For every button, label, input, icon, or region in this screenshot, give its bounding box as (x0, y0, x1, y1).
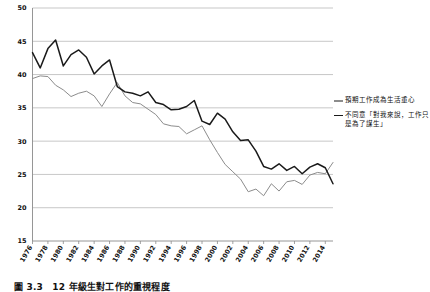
svg-text:1998: 1998 (188, 244, 204, 264)
svg-text:1988: 1988 (111, 244, 127, 264)
svg-text:2010: 2010 (280, 244, 296, 264)
svg-text:1990: 1990 (126, 244, 142, 264)
y-tick-labels: 1520253035404550 (17, 4, 27, 245)
legend-label-series-1: 預期工作成為生活重心 (345, 96, 430, 106)
svg-text:1992: 1992 (142, 244, 158, 264)
svg-text:40: 40 (17, 71, 27, 79)
svg-text:2014: 2014 (311, 244, 327, 264)
svg-text:1984: 1984 (80, 244, 96, 264)
legend-entry-disagree-work-is-just-living: 不同意「對我來說，工作只是為了謀生」 (334, 111, 430, 130)
legend-entry-expect-work-center: 預期工作成為生活重心 (334, 96, 430, 106)
svg-text:1986: 1986 (95, 244, 111, 264)
axis-lines (33, 8, 334, 241)
figure-container: 1520253035404550 19761978198019821984198… (0, 0, 430, 292)
series-lines (33, 40, 334, 196)
x-tick-labels: 1976197819801982198419861988199019921994… (18, 244, 327, 264)
svg-text:2012: 2012 (296, 244, 312, 264)
chart-legend: 預期工作成為生活重心 不同意「對我來說，工作只是為了謀生」 (334, 96, 430, 135)
legend-label-series-2: 不同意「對我來說，工作只是為了謀生」 (345, 111, 430, 130)
line-chart: 1520253035404550 19761978198019821984198… (0, 0, 430, 292)
svg-text:2000: 2000 (203, 244, 219, 264)
svg-text:50: 50 (17, 4, 27, 12)
svg-text:1996: 1996 (172, 244, 188, 264)
svg-text:30: 30 (17, 138, 27, 146)
svg-text:15: 15 (17, 237, 27, 245)
svg-text:35: 35 (17, 104, 27, 112)
svg-text:1976: 1976 (18, 244, 34, 264)
legend-swatch-series-1 (334, 100, 343, 102)
svg-text:2002: 2002 (219, 244, 235, 264)
legend-swatch-series-2 (334, 115, 343, 117)
figure-caption: 圖 3.3 12 年級生對工作的重視程度 (14, 280, 170, 292)
svg-text:2008: 2008 (265, 244, 281, 264)
svg-text:20: 20 (17, 204, 27, 212)
svg-text:1978: 1978 (34, 244, 50, 264)
svg-text:2004: 2004 (234, 244, 250, 264)
svg-text:45: 45 (17, 38, 27, 46)
svg-text:2006: 2006 (249, 244, 265, 264)
svg-text:25: 25 (17, 171, 27, 179)
svg-text:1980: 1980 (49, 244, 65, 264)
svg-text:1982: 1982 (64, 244, 80, 264)
svg-text:1994: 1994 (157, 244, 173, 264)
